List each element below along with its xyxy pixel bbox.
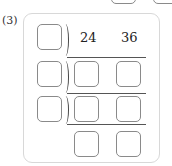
division-line-1 <box>67 57 146 58</box>
dividend-2: 36 <box>121 30 138 45</box>
quotient-box-2a[interactable] <box>74 61 99 87</box>
divisor-box-1[interactable] <box>37 24 62 50</box>
problem-label: (3) <box>2 14 18 27</box>
prev-answer-box-2[interactable] <box>153 0 172 4</box>
quotient-box-2b[interactable] <box>116 61 141 87</box>
divisor-box-2[interactable] <box>37 61 62 87</box>
divisor-box-3[interactable] <box>37 96 62 122</box>
dividend-1: 24 <box>80 30 97 45</box>
quotient-box-3b[interactable] <box>116 96 141 122</box>
division-bracket-2 <box>62 61 69 93</box>
result-box-b[interactable] <box>116 131 141 157</box>
division-line-3 <box>67 124 146 125</box>
division-line-2 <box>67 93 146 94</box>
division-bracket-3 <box>62 96 69 124</box>
prev-answer-box-1[interactable] <box>111 0 136 4</box>
division-bracket-1 <box>62 24 69 56</box>
quotient-box-3a[interactable] <box>74 96 99 122</box>
result-box-a[interactable] <box>74 131 99 157</box>
